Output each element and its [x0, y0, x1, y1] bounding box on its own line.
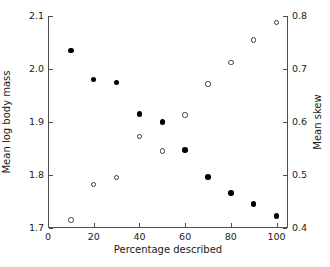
- y-axis-right-tick-label: 0.7: [292, 64, 307, 74]
- y-axis-left-tick: [49, 16, 53, 17]
- y-axis-right-tick-label: 0.6: [292, 117, 307, 127]
- x-axis-line: [48, 227, 288, 228]
- y-axis-left-tick: [49, 228, 53, 229]
- y-axis-left-tick-label: 2.1: [29, 11, 44, 21]
- data-point: [205, 174, 211, 180]
- x-axis-tick-label: 0: [45, 232, 51, 242]
- y-axis-right-line: [287, 16, 288, 228]
- data-point: [182, 112, 188, 118]
- x-axis-tick: [48, 223, 49, 227]
- y-axis-left-tick: [49, 175, 53, 176]
- x-axis-tick-label: 60: [179, 232, 191, 242]
- x-axis-title: Percentage described: [114, 244, 222, 255]
- y-axis-left-title: Mean log body mass: [1, 70, 12, 173]
- x-axis-tick: [185, 223, 186, 227]
- y-axis-right-tick: [283, 228, 287, 229]
- data-point: [91, 77, 97, 83]
- y-axis-right-tick-label: 0.4: [292, 223, 307, 233]
- data-point: [68, 217, 74, 223]
- data-point: [274, 20, 280, 26]
- y-axis-left-tick-label: 1.9: [29, 117, 44, 127]
- data-point: [160, 148, 166, 154]
- y-axis-right-tick: [283, 69, 287, 70]
- data-point: [160, 119, 166, 125]
- data-point: [274, 213, 280, 219]
- y-axis-left-tick-label: 1.7: [29, 223, 44, 233]
- x-axis-tick: [231, 223, 232, 227]
- data-point: [251, 37, 257, 43]
- y-axis-right-tick-label: 0.5: [292, 170, 307, 180]
- data-point: [114, 175, 120, 181]
- data-point: [91, 182, 97, 188]
- data-point: [228, 190, 234, 196]
- x-axis-tick-label: 100: [267, 232, 285, 242]
- y-axis-left-tick: [49, 69, 53, 70]
- y-axis-right-tick: [283, 16, 287, 17]
- y-axis-left-tick-label: 2.0: [29, 64, 44, 74]
- data-point: [137, 134, 143, 140]
- y-axis-right-tick: [283, 175, 287, 176]
- data-point: [228, 60, 234, 66]
- y-axis-left-tick-label: 1.8: [29, 170, 44, 180]
- x-axis-tick: [277, 223, 278, 227]
- x-axis-tick: [139, 223, 140, 227]
- x-axis-tick-label: 80: [225, 232, 237, 242]
- data-point: [114, 80, 120, 86]
- y-axis-right-title: Mean skew: [312, 94, 323, 149]
- plot-area: 1.71.81.92.02.1 0.40.50.60.70.8 02040608…: [48, 16, 288, 228]
- y-axis-right-tick-label: 0.8: [292, 11, 307, 21]
- y-axis-left-tick: [49, 122, 53, 123]
- x-axis-tick-label: 20: [88, 232, 100, 242]
- x-axis-tick-label: 40: [133, 232, 145, 242]
- data-point: [205, 81, 211, 87]
- data-point: [182, 147, 188, 153]
- data-point: [251, 201, 257, 207]
- data-point: [68, 48, 74, 54]
- x-axis-tick: [94, 223, 95, 227]
- data-point: [137, 111, 143, 117]
- scatter-chart-figure: 1.71.81.92.02.1 0.40.50.60.70.8 02040608…: [0, 0, 330, 267]
- y-axis-right-tick: [283, 122, 287, 123]
